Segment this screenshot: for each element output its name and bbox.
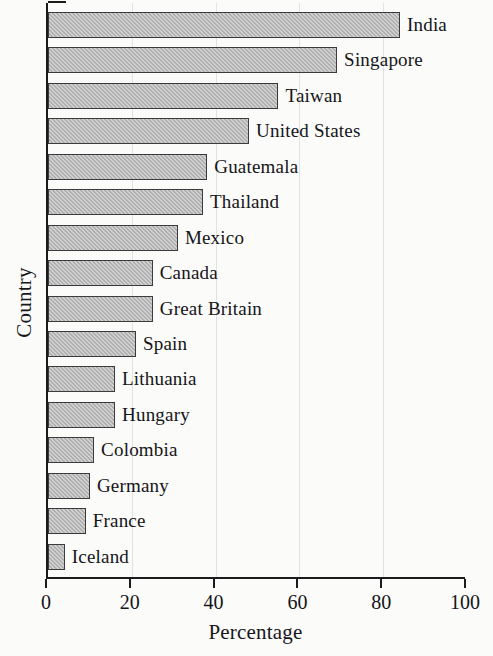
bar-row: Lithuania (48, 366, 467, 392)
bar-category-label: Guatemala (207, 156, 298, 178)
x-axis-tick (213, 579, 215, 588)
bar (48, 296, 153, 322)
x-axis-tick-label: 80 (351, 591, 411, 614)
bar (48, 154, 207, 180)
bar (48, 225, 178, 251)
bar-category-label: Colombia (94, 439, 178, 461)
bar (48, 260, 153, 286)
x-axis-tick-label: 0 (16, 591, 76, 614)
bar-row: Mexico (48, 225, 467, 251)
bar (48, 47, 337, 73)
x-axis-tick (129, 579, 131, 588)
bar-row: Iceland (48, 544, 467, 570)
bar-category-label: Singapore (337, 49, 423, 71)
bar-row: Taiwan (48, 83, 467, 109)
bar-row: Thailand (48, 189, 467, 215)
bar-category-label: Mexico (178, 227, 244, 249)
x-axis-tick-label: 40 (184, 591, 244, 614)
bar-category-label: India (400, 14, 447, 36)
bar-row: Singapore (48, 47, 467, 73)
bar-row: Canada (48, 260, 467, 286)
bar-category-label: Spain (136, 333, 187, 355)
bar-category-label: France (86, 510, 146, 532)
bar (48, 508, 86, 534)
x-axis-tick (296, 579, 298, 588)
x-axis-tick (380, 579, 382, 588)
bar-category-label: Great Britain (153, 298, 262, 320)
bar (48, 366, 115, 392)
bar-category-label: Lithuania (115, 368, 197, 390)
x-axis-tick (45, 579, 47, 588)
x-axis-tick (464, 579, 466, 588)
bar (48, 83, 278, 109)
bar-category-label: Thailand (203, 191, 279, 213)
x-axis-tick-label: 100 (435, 591, 493, 614)
bar-category-label: United States (249, 120, 360, 142)
x-axis-tick-label: 20 (100, 591, 160, 614)
bar-category-label: Canada (153, 262, 218, 284)
x-axis-title: Percentage (46, 620, 465, 645)
bar-chart-figure: Country IndiaSingaporeTaiwanUnited State… (0, 0, 493, 656)
bar-row: India (48, 12, 467, 38)
bar (48, 544, 65, 570)
bar-row: France (48, 508, 467, 534)
bar-row: Guatemala (48, 154, 467, 180)
bar (48, 189, 203, 215)
bar (48, 118, 249, 144)
bar-row: Great Britain (48, 296, 467, 322)
bar (48, 331, 136, 357)
bars-container: IndiaSingaporeTaiwanUnited StatesGuatema… (48, 3, 465, 577)
bar-row: Spain (48, 331, 467, 357)
bar (48, 402, 115, 428)
bar-row: Colombia (48, 437, 467, 463)
y-axis-title: Country (12, 233, 37, 373)
plot-area: IndiaSingaporeTaiwanUnited StatesGuatema… (46, 3, 465, 579)
bar-row: United States (48, 118, 467, 144)
x-axis-tick-label: 60 (267, 591, 327, 614)
bar (48, 437, 94, 463)
bar (48, 473, 90, 499)
bar-category-label: Germany (90, 475, 169, 497)
bar (48, 12, 400, 38)
bar-row: Hungary (48, 402, 467, 428)
bar-row: Germany (48, 473, 467, 499)
bar-category-label: Hungary (115, 404, 190, 426)
bar-category-label: Taiwan (278, 85, 342, 107)
bar-category-label: Iceland (65, 546, 129, 568)
